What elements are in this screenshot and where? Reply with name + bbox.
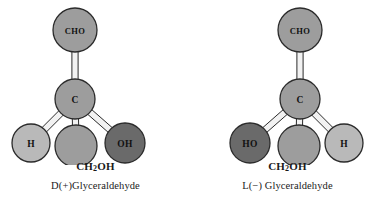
atom-cho-l: CHO (278, 8, 322, 52)
atom-sphere-bottom (55, 125, 97, 165)
atom-label-center: C (296, 95, 303, 105)
atom-c-d: C (55, 79, 95, 119)
atom-label-center: C (71, 95, 78, 105)
bond-center-top (297, 50, 303, 81)
bond-center-top (72, 50, 78, 81)
formula-tail-l: OH (289, 160, 307, 172)
formula-tail-d: OH (97, 160, 115, 172)
atom-sphere-bottom (278, 125, 320, 165)
atom-label-right: H (340, 139, 348, 149)
atom-bottom-d (55, 125, 97, 165)
formula-main-l: CH (268, 160, 285, 172)
molecule-d-glyceraldehyde: CHOCHOH CH2OH D(+)Glyceraldehyde (0, 0, 191, 197)
atom-cho-d: CHO (53, 8, 97, 52)
atom-label-top: CHO (65, 26, 85, 36)
atom-ho-l: HO (230, 123, 270, 163)
molecule-name-d: D(+)Glyceraldehyde (0, 180, 191, 191)
formula-main-d: CH (76, 160, 93, 172)
molecule-name-l: L(−) Glyceraldehyde (192, 180, 383, 191)
atom-label-left: HO (242, 139, 257, 149)
atom-h-l: H (325, 124, 363, 162)
atom-label-left: H (27, 139, 35, 149)
formula-label-d: CH2OH (0, 160, 191, 173)
formula-label-l: CH2OH (192, 160, 383, 173)
atom-c-l: C (280, 79, 320, 119)
atom-group-d: CHOCHOH (12, 8, 145, 165)
atom-label-right: OH (117, 139, 133, 149)
figure-canvas: CHOCHOH CH2OH D(+)Glyceraldehyde CHOCHOH… (0, 0, 383, 197)
molecule-l-glyceraldehyde: CHOCHOH CH2OH L(−) Glyceraldehyde (192, 0, 383, 197)
atom-label-top: CHO (290, 26, 310, 36)
molecule-d-diagram: CHOCHOH (0, 0, 191, 165)
molecule-l-diagram: CHOCHOH (192, 0, 383, 165)
atom-bottom-l (278, 125, 320, 165)
atom-group-l: CHOCHOH (230, 8, 363, 165)
atom-oh-d: OH (105, 123, 145, 163)
atom-h-d: H (12, 124, 50, 162)
